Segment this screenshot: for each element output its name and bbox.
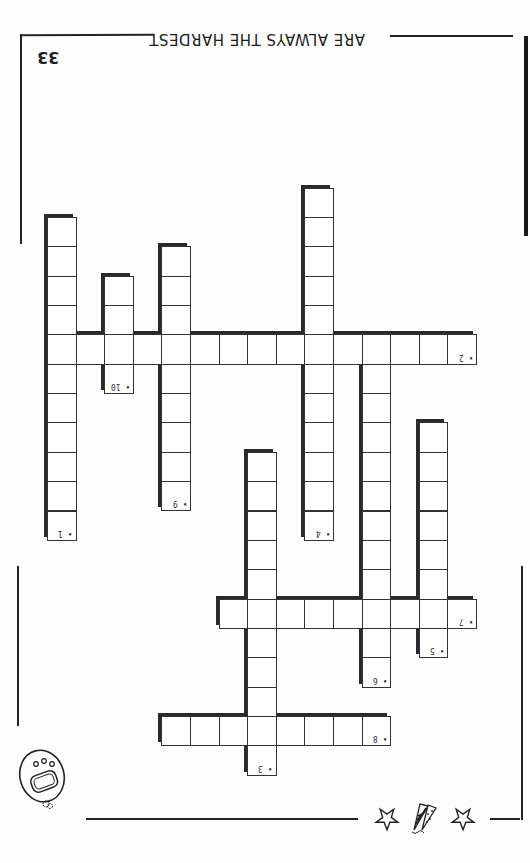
crossword-cell[interactable]: • 3 [247,745,277,775]
crossword-cell[interactable] [276,599,306,629]
crossword-cell[interactable] [362,599,392,629]
cell-input[interactable] [162,717,190,745]
crossword-cell[interactable]: • 4 [304,511,334,541]
cell-input[interactable] [420,600,448,628]
crossword-cell[interactable] [104,305,134,335]
cell-input[interactable] [162,277,190,305]
cell-input[interactable] [248,746,276,774]
cell-input[interactable] [48,423,76,451]
cell-input[interactable] [162,365,190,393]
cell-input[interactable] [220,335,248,363]
crossword-cell[interactable] [304,716,334,746]
crossword-cell[interactable] [161,276,191,306]
crossword-cell[interactable]: • 7 [447,599,477,629]
crossword-cell[interactable] [304,246,334,276]
crossword-cell[interactable] [47,364,77,394]
crossword-cell[interactable] [161,393,191,423]
crossword-cell[interactable] [276,334,306,364]
cell-input[interactable] [162,306,190,334]
crossword-cell[interactable] [419,599,449,629]
cell-input[interactable] [363,365,391,393]
cell-input[interactable] [248,688,276,716]
cell-input[interactable] [162,453,190,481]
cell-input[interactable] [363,658,391,686]
crossword-cell[interactable] [304,305,334,335]
cell-input[interactable] [334,335,362,363]
crossword-cell[interactable]: • 2 [447,334,477,364]
crossword-cell[interactable] [419,511,449,541]
cell-input[interactable] [305,189,333,217]
crossword-cell[interactable] [362,540,392,570]
crossword-cell[interactable] [47,276,77,306]
cell-input[interactable] [277,600,305,628]
crossword-cell[interactable] [304,188,334,218]
cell-input[interactable] [248,482,276,510]
cell-input[interactable] [420,512,448,540]
cell-input[interactable] [305,482,333,510]
cell-input[interactable] [162,335,190,363]
crossword-cell[interactable] [362,452,392,482]
cell-input[interactable] [191,717,219,745]
cell-input[interactable] [162,247,190,275]
cell-input[interactable] [134,335,162,363]
crossword-cell[interactable] [247,481,277,511]
cell-input[interactable] [305,277,333,305]
cell-input[interactable] [48,335,76,363]
crossword-cell[interactable] [104,334,134,364]
crossword-cell[interactable] [47,305,77,335]
crossword-cell[interactable] [419,334,449,364]
cell-input[interactable] [420,335,448,363]
cell-input[interactable] [191,335,219,363]
crossword-cell[interactable] [362,393,392,423]
cell-input[interactable] [248,512,276,540]
crossword-cell[interactable] [219,334,249,364]
cell-input[interactable] [363,512,391,540]
crossword-cell[interactable] [304,599,334,629]
cell-input[interactable] [48,218,76,246]
crossword-cell[interactable] [304,393,334,423]
cell-input[interactable] [248,541,276,569]
cell-input[interactable] [305,247,333,275]
cell-input[interactable] [420,482,448,510]
crossword-cell[interactable] [247,540,277,570]
cell-input[interactable] [48,512,76,540]
cell-input[interactable] [305,717,333,745]
cell-input[interactable] [305,218,333,246]
cell-input[interactable] [248,658,276,686]
cell-input[interactable] [448,600,476,628]
cell-input[interactable] [363,394,391,422]
crossword-cell[interactable] [161,246,191,276]
cell-input[interactable] [277,717,305,745]
crossword-cell[interactable] [419,481,449,511]
crossword-cell[interactable] [161,716,191,746]
cell-input[interactable] [420,453,448,481]
crossword-cell[interactable] [47,422,77,452]
cell-input[interactable] [248,453,276,481]
crossword-cell[interactable] [104,276,134,306]
crossword-cell[interactable] [47,334,77,364]
crossword-cell[interactable] [247,599,277,629]
cell-input[interactable] [305,306,333,334]
cell-input[interactable] [220,600,248,628]
crossword-cell[interactable]: • 6 [362,657,392,687]
crossword-cell[interactable] [161,452,191,482]
cell-input[interactable] [420,423,448,451]
cell-input[interactable] [248,629,276,657]
crossword-cell[interactable] [247,657,277,687]
crossword-cell[interactable] [419,422,449,452]
crossword-cell[interactable] [161,305,191,335]
crossword-cell[interactable] [390,334,420,364]
crossword-cell[interactable] [276,716,306,746]
crossword-cell[interactable]: • 9 [161,481,191,511]
cell-input[interactable] [420,541,448,569]
crossword-cell[interactable] [362,511,392,541]
crossword-cell[interactable] [304,276,334,306]
cell-input[interactable] [48,394,76,422]
crossword-cell[interactable] [304,217,334,247]
crossword-cell[interactable] [362,569,392,599]
cell-input[interactable] [220,717,248,745]
crossword-cell[interactable] [362,422,392,452]
crossword-cell[interactable] [133,334,163,364]
cell-input[interactable] [363,423,391,451]
crossword-cell[interactable] [247,334,277,364]
